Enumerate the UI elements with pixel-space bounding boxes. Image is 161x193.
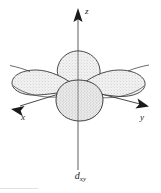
- z-axis-label: z: [85, 7, 89, 16]
- y-axis-label: y: [140, 113, 144, 122]
- orbital-diagram-svg: [0, 0, 161, 193]
- orbital-caption: dxy: [0, 171, 161, 183]
- bottom-rule: [0, 188, 38, 189]
- lobe-front-lower: [56, 80, 103, 121]
- x-axis-label: x: [21, 113, 25, 122]
- caption-subscript: xy: [80, 175, 87, 183]
- orbital-figure: z x y dxy: [0, 0, 161, 193]
